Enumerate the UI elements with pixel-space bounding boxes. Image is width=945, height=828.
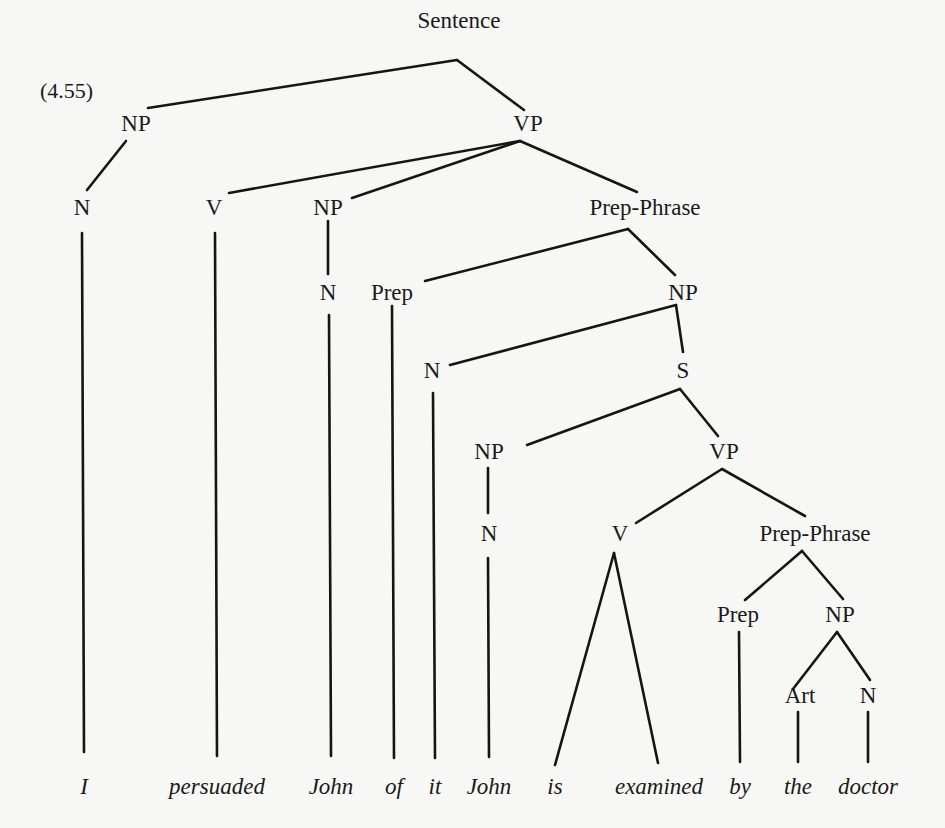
node-n3: N [424, 358, 441, 383]
example-number: (4.55) [40, 78, 93, 103]
node-prep1: Prep [371, 280, 413, 305]
word-3: of [385, 774, 407, 799]
tree-edge [392, 306, 394, 758]
node-np3: NP [668, 280, 697, 305]
tree-edge [82, 233, 84, 752]
node-n1: N [74, 195, 91, 220]
tree-edge [745, 551, 802, 600]
node-vp1: VP [513, 111, 542, 136]
node-art1: Art [785, 683, 816, 708]
tree-edge [680, 389, 718, 436]
tree-edge [433, 393, 435, 758]
tree-edge [527, 389, 680, 445]
node-vp2: VP [709, 439, 738, 464]
word-9: the [784, 774, 812, 799]
node-s1: S [677, 358, 690, 383]
parse-tree-diagram: (4.55) SentenceNPVPNVNPPrep-PhraseNPrepN… [0, 0, 945, 828]
word-4: it [429, 774, 442, 799]
node-pp1: Prep-Phrase [589, 195, 700, 220]
tree-edge [739, 632, 740, 762]
node-n5: N [860, 683, 877, 708]
word-6: is [547, 774, 562, 799]
tree-edges [82, 60, 870, 765]
node-prep2: Prep [717, 602, 759, 627]
tree-edge [802, 551, 843, 599]
word-8: by [729, 774, 752, 799]
word-0: I [79, 774, 89, 799]
sentence-words: IpersuadedJohnofitJohnisexaminedbythedoc… [79, 774, 899, 799]
tree-edge [837, 632, 870, 680]
tree-edge [329, 315, 331, 756]
tree-edge [148, 60, 457, 108]
word-7: examined [615, 774, 704, 799]
tree-edge [676, 305, 683, 352]
tree-edge [793, 632, 837, 689]
tree-edge [450, 305, 676, 365]
tree-edge [457, 60, 524, 110]
tree-edge [636, 469, 722, 523]
node-pp2: Prep-Phrase [759, 521, 870, 546]
node-n2: N [320, 280, 337, 305]
tree-edge [555, 553, 614, 765]
node-v1: V [206, 195, 223, 220]
tree-edge [520, 141, 637, 192]
node-np1: NP [121, 111, 150, 136]
tree-edge [229, 141, 520, 193]
word-10: doctor [838, 774, 899, 799]
word-1: persuaded [167, 774, 265, 799]
tree-edge [722, 469, 805, 516]
word-5: John [467, 774, 512, 799]
tree-edge [628, 229, 675, 275]
node-v2: V [612, 521, 629, 546]
node-np2: NP [313, 195, 342, 220]
word-2: John [309, 774, 354, 799]
node-np5: NP [825, 602, 854, 627]
tree-edge [87, 141, 126, 190]
tree-edge [425, 229, 628, 281]
tree-edge [352, 141, 520, 198]
tree-edge [215, 233, 217, 756]
node-np4: NP [474, 439, 503, 464]
tree-edge [488, 558, 489, 757]
node-sentence: Sentence [417, 8, 500, 33]
node-n4: N [481, 521, 498, 546]
tree-edge [614, 553, 658, 763]
